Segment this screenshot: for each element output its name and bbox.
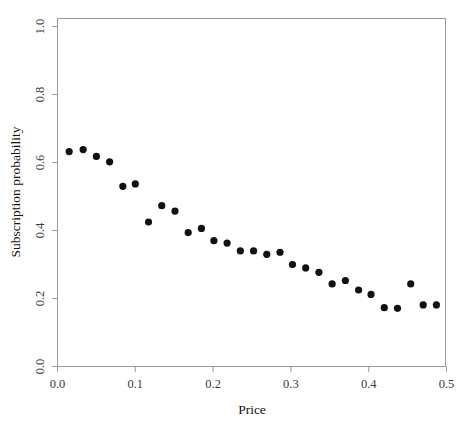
- data-point: [420, 301, 427, 308]
- y-axis-ticks: [52, 27, 58, 367]
- data-point: [237, 247, 244, 254]
- figure-top-caption: [0, 0, 472, 4]
- x-tick-label: 0.0: [50, 377, 66, 391]
- y-tick-label: 0.8: [33, 87, 47, 103]
- figure-bottom-caption: [0, 424, 472, 434]
- data-point: [329, 280, 336, 287]
- y-tick-label: 0.4: [33, 222, 47, 238]
- y-tick-label: 1.0: [33, 19, 47, 35]
- y-tick-label: 0.0: [33, 359, 47, 375]
- scatter-plot: 0.0 0.2 0.4 0.6 0.8 1.0 0.0 0.1 0.2 0.3 …: [0, 0, 472, 424]
- data-point: [381, 304, 388, 311]
- y-axis-tick-labels: 0.0 0.2 0.4 0.6 0.8 1.0: [33, 19, 47, 375]
- data-point: [433, 301, 440, 308]
- x-axis-tick-labels: 0.0 0.1 0.2 0.3 0.4 0.5: [50, 377, 455, 391]
- data-point: [407, 280, 414, 287]
- data-point-group: [66, 146, 440, 312]
- data-point: [302, 264, 309, 271]
- data-point: [119, 183, 126, 190]
- data-point: [80, 146, 87, 153]
- data-point: [145, 218, 152, 225]
- faint-artifact-mark: : :: [103, 358, 107, 363]
- data-point: [367, 291, 374, 298]
- data-point: [342, 277, 349, 284]
- data-point: [132, 180, 139, 187]
- data-point: [158, 202, 165, 209]
- data-point: [394, 305, 401, 312]
- data-point: [93, 153, 100, 160]
- data-point: [289, 261, 296, 268]
- chart-figure: 0.0 0.2 0.4 0.6 0.8 1.0 0.0 0.1 0.2 0.3 …: [0, 0, 472, 434]
- data-point: [355, 286, 362, 293]
- data-point: [250, 247, 257, 254]
- x-tick-label: 0.1: [127, 377, 143, 391]
- x-tick-label: 0.4: [361, 377, 377, 391]
- x-tick-label: 0.5: [439, 377, 455, 391]
- y-tick-label: 0.2: [33, 291, 47, 307]
- x-tick-label: 0.3: [283, 377, 299, 391]
- x-axis-ticks: [58, 367, 447, 373]
- data-point: [185, 229, 192, 236]
- plot-frame: [58, 19, 446, 367]
- data-point: [263, 251, 270, 258]
- data-point: [224, 239, 231, 246]
- data-point: [315, 269, 322, 276]
- data-point: [171, 208, 178, 215]
- x-axis-title: Price: [238, 402, 266, 417]
- data-point: [210, 237, 217, 244]
- y-tick-label: 0.6: [33, 155, 47, 171]
- data-point: [66, 148, 73, 155]
- y-axis-title: Subscription probability: [8, 126, 23, 257]
- data-point: [276, 249, 283, 256]
- x-tick-label: 0.2: [205, 377, 221, 391]
- data-point: [198, 225, 205, 232]
- data-point: [106, 158, 113, 165]
